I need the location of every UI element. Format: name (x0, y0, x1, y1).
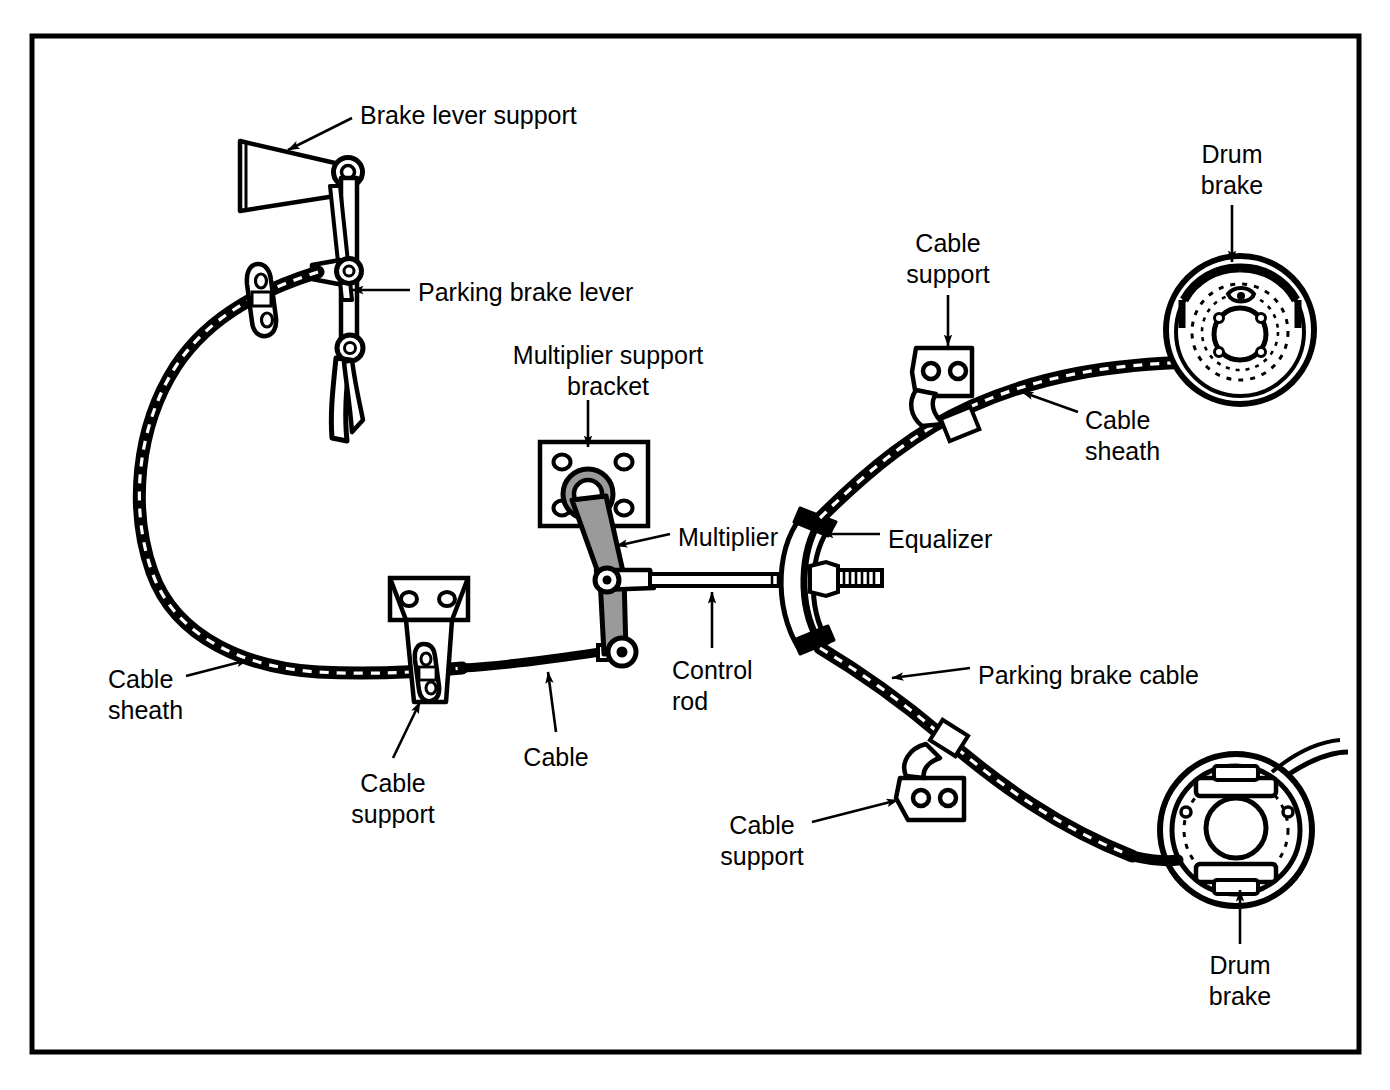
figure-canvas: Brake lever supportParking brake leverDr… (0, 0, 1390, 1090)
leader-brake-lever-support (288, 118, 352, 150)
parking-brake-lever (312, 178, 363, 441)
leader-cable-support-lower-right (812, 800, 898, 822)
equalizer (781, 508, 882, 654)
label-multiplier: Multiplier (678, 522, 778, 553)
cable (462, 645, 622, 668)
leader-cable-sheath-right (1022, 392, 1078, 412)
leader-cable-sheath-left (186, 660, 248, 676)
label-brake-lever-support: Brake lever support (360, 100, 577, 131)
leader-cable-support-left (393, 702, 420, 758)
label-equalizer: Equalizer (888, 524, 992, 555)
cable-support-upper-right (911, 348, 979, 441)
cable-support-left (390, 578, 468, 702)
label-drum-brake-lower: Drumbrake (1209, 950, 1272, 1012)
label-control-rod: Controlrod (672, 655, 753, 717)
label-drum-brake-upper: Drumbrake (1201, 139, 1264, 201)
leader-parking-brake-cable (892, 668, 970, 678)
label-parking-brake-cable: Parking brake cable (978, 660, 1199, 691)
label-cable: Cable (523, 742, 588, 773)
label-cable-sheath-right: Cablesheath (1085, 405, 1160, 467)
label-cable-support-lower-right: Cablesupport (720, 810, 803, 872)
label-cable-support-upper-right: Cablesupport (906, 228, 989, 290)
control-rod (650, 574, 790, 586)
drum-brake-lower (1132, 740, 1348, 906)
label-cable-support-left: Cablesupport (351, 768, 434, 830)
cable-support-lower-right (896, 720, 968, 820)
cable-clamp-left (247, 264, 276, 336)
leader-cable (548, 672, 556, 732)
drum-brake-upper (1166, 256, 1314, 404)
label-cable-sheath-left: Cablesheath (108, 664, 183, 726)
label-parking-brake-lever: Parking brake lever (418, 277, 633, 308)
label-multiplier-support-bracket: Multiplier supportbracket (513, 340, 703, 402)
leader-multiplier (616, 534, 670, 546)
